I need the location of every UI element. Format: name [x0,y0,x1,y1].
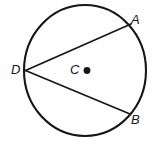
point-label-d: D [11,63,20,76]
circle-center-dot [84,67,91,74]
point-label-c: C [70,63,79,76]
point-label-b: B [131,113,140,126]
point-label-a: A [131,13,140,26]
geometry-figure: A B D C [0,0,152,144]
chord-segment-db [26,71,131,115]
